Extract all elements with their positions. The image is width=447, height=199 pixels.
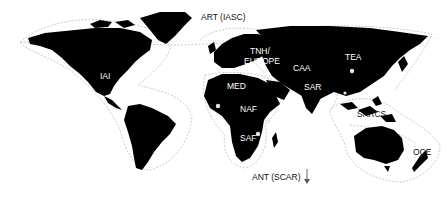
label-sar: SAR: [304, 83, 321, 92]
label-tnh: TNH/: [250, 47, 270, 56]
label-caa: CAA: [293, 64, 310, 73]
australia: [354, 126, 404, 164]
label-oce: OCE: [413, 148, 431, 157]
down-arrow-icon: [304, 169, 310, 184]
label-sarcs: SARCS: [357, 110, 386, 119]
label-ant: ANT (SCAR): [252, 173, 301, 182]
south-america: [124, 104, 176, 170]
label-tea: TEA: [345, 53, 362, 62]
label-iai: IAI: [100, 72, 110, 81]
label-naf: NAF: [240, 105, 257, 114]
north-america: [28, 28, 152, 96]
world-map: [0, 0, 447, 199]
label-art: ART (IASC): [201, 13, 246, 22]
label-europe: EUROPE: [244, 57, 280, 66]
label-med: MED: [227, 82, 246, 91]
landmasses: [28, 12, 428, 172]
label-saf: SAF: [240, 134, 257, 143]
